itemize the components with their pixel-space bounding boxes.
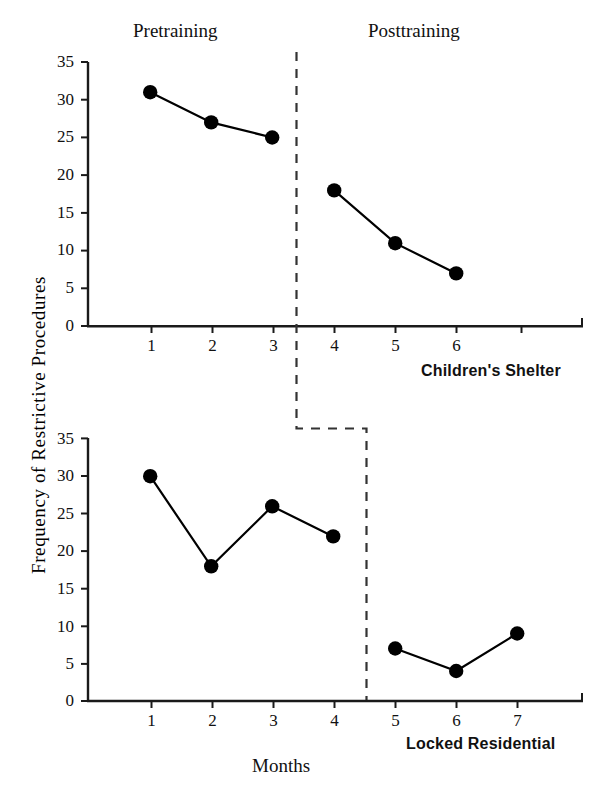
bottom-xtick-7: 7 [502, 711, 533, 731]
bottom-xtick-1: 1 [136, 711, 167, 731]
bottom-panel-series-pretraining [143, 469, 340, 574]
bottom-xtick-2: 2 [197, 711, 228, 731]
top-ytick-25: 25 [38, 127, 74, 147]
top-posttraining-line [334, 190, 456, 273]
data-point [388, 236, 402, 250]
bottom-xtick-4: 4 [319, 711, 350, 731]
top-xtick-1: 1 [136, 336, 167, 356]
top-ytick-35: 35 [38, 52, 74, 72]
bottom-xtick-5: 5 [380, 711, 411, 731]
chart-canvas [0, 0, 611, 800]
figure-chart-restrictive-procedures: Pretraining Posttraining 35 30 25 20 15 … [0, 0, 611, 800]
top-panel-series-posttraining [327, 183, 463, 280]
y-axis-title-wrapper: Frequency of Restrictive Procedures [28, 195, 58, 655]
top-xtick-5: 5 [380, 336, 411, 356]
data-point [143, 85, 157, 99]
top-panel-series-pretraining [143, 85, 279, 145]
x-axis-title: Months [252, 755, 310, 777]
y-axis-title: Frequency of Restrictive Procedures [28, 276, 50, 574]
top-xtick-4: 4 [319, 336, 350, 356]
bottom-pretraining-line [150, 476, 333, 566]
data-point [204, 559, 218, 573]
data-point [449, 664, 463, 678]
top-ytick-20: 20 [38, 165, 74, 185]
data-point [388, 641, 402, 655]
data-point [265, 499, 279, 513]
bottom-xtick-3: 3 [258, 711, 289, 731]
top-xtick-3: 3 [258, 336, 289, 356]
data-point [204, 115, 218, 129]
top-ytick-30: 30 [38, 90, 74, 110]
top-pretraining-line [150, 92, 272, 137]
bottom-panel-series-posttraining [388, 626, 524, 678]
phase-label-posttraining: Posttraining [368, 20, 460, 42]
data-point [143, 469, 157, 483]
top-xtick-6: 6 [441, 336, 472, 356]
bottom-xtick-6: 6 [441, 711, 472, 731]
data-point [265, 130, 279, 144]
bottom-ytick-5: 5 [38, 654, 74, 674]
data-point [326, 529, 340, 543]
phase-change-dashed-line [297, 52, 367, 701]
data-point [510, 626, 524, 640]
panel-label-locked-residential: Locked Residential [406, 735, 555, 753]
bottom-ytick-0: 0 [38, 691, 74, 711]
top-xtick-2: 2 [197, 336, 228, 356]
top-panel-axes [81, 62, 583, 333]
phase-label-pretraining: Pretraining [133, 20, 217, 42]
data-point [449, 266, 463, 280]
panel-label-childrens-shelter: Children's Shelter [421, 362, 561, 380]
data-point [327, 183, 341, 197]
